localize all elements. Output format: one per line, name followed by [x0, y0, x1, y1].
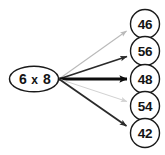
option-circle-42[interactable]: 42: [131, 119, 160, 148]
option-label-46: 46: [138, 17, 153, 32]
option-circle-54[interactable]: 54: [131, 92, 160, 121]
diagram-svg: 6 x 8 46 56 48 54 42: [0, 0, 165, 155]
option-circle-46[interactable]: 46: [131, 10, 160, 39]
option-label-42: 42: [138, 126, 153, 141]
arrow-diagram-canvas: 6 x 8 46 56 48 54 42: [0, 0, 165, 155]
option-label-56: 56: [138, 44, 153, 59]
arrow-to-54: [59, 79, 127, 102]
option-label-48: 48: [138, 72, 153, 87]
hub-operand-left: 6: [19, 71, 27, 87]
arrow-to-42: [59, 79, 127, 126]
problem-ellipse: 6 x 8: [10, 66, 59, 92]
option-circle-48[interactable]: 48: [131, 65, 160, 94]
arrow-to-56: [59, 57, 127, 80]
hub-operator: x: [31, 73, 38, 87]
hub-operand-right: 8: [43, 71, 51, 87]
option-circle-56[interactable]: 56: [131, 37, 160, 66]
arrow-group: [59, 31, 127, 126]
arrow-to-46: [59, 31, 127, 79]
option-label-54: 54: [138, 99, 153, 114]
